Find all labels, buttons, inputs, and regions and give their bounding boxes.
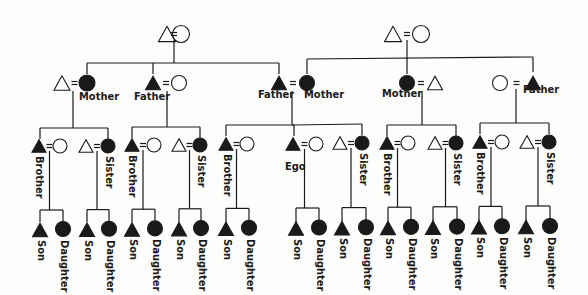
- label-mother: Mother: [382, 88, 422, 99]
- male-filled-icon: [33, 223, 48, 237]
- male-filled-icon: [146, 76, 161, 90]
- male-open-icon: [333, 137, 347, 150]
- label-daughter: Daughter: [151, 239, 162, 291]
- female-filled-icon: [194, 221, 209, 236]
- female-filled-icon: [56, 222, 71, 237]
- female-filled-icon: [102, 221, 117, 236]
- label-son: Son: [384, 238, 395, 259]
- female-open-icon: [240, 137, 254, 151]
- label-son: Son: [222, 239, 233, 260]
- label-son: Son: [36, 240, 47, 261]
- label-daughter: Daughter: [407, 238, 418, 290]
- male-filled-icon: [289, 222, 304, 236]
- male-open-icon: [79, 140, 93, 153]
- label-daughter: Daughter: [362, 238, 373, 290]
- kinship-diagram: MotherFatherFatherMotherMotherFatherBrot…: [0, 0, 588, 295]
- female-filled-icon: [449, 136, 463, 150]
- label-mother: Mother: [304, 89, 344, 100]
- female-filled-icon: [242, 220, 257, 235]
- female-open-icon: [147, 138, 161, 152]
- male-filled-icon: [473, 136, 487, 149]
- female-filled-icon: [312, 220, 327, 235]
- label-brother: Brother: [222, 154, 233, 197]
- male-open-icon: [385, 26, 402, 41]
- female-open-icon: [495, 135, 509, 149]
- label-mother: Mother: [79, 91, 119, 102]
- female-filled-icon: [404, 219, 419, 234]
- label-daughter: Daughter: [498, 237, 509, 289]
- label-father: Father: [523, 84, 559, 95]
- label-brother: Brother: [382, 153, 393, 196]
- male-filled-icon: [335, 221, 350, 235]
- male-filled-icon: [426, 221, 441, 235]
- female-open-icon: [309, 137, 323, 151]
- female-filled-icon: [193, 138, 207, 152]
- female-filled-icon: [355, 136, 369, 150]
- label-son: Son: [128, 239, 139, 260]
- label-sister: Sister: [545, 152, 556, 185]
- male-open-icon: [172, 139, 186, 152]
- male-open-icon: [54, 76, 70, 90]
- label-daughter: Daughter: [245, 239, 256, 291]
- label-daughter: Daughter: [546, 237, 557, 289]
- connector-line: [307, 57, 533, 59]
- label-daughter: Daughter: [453, 238, 464, 290]
- female-filled-icon: [359, 220, 374, 235]
- label-son: Son: [83, 240, 94, 261]
- female-filled-icon: [495, 219, 510, 234]
- label-daughter: Daughter: [59, 240, 70, 292]
- label-brother: Brother: [127, 155, 138, 198]
- label-son: Son: [475, 237, 486, 258]
- female-filled-icon: [450, 219, 465, 234]
- label-daughter: Daughter: [315, 239, 326, 291]
- male-filled-icon: [380, 137, 394, 150]
- male-filled-icon: [381, 221, 396, 235]
- connector-line: [292, 124, 362, 125]
- male-filled-icon: [125, 223, 140, 237]
- male-filled-icon: [172, 222, 187, 236]
- female-filled-icon: [542, 135, 556, 149]
- label-sister: Sister: [104, 156, 115, 189]
- female-filled-icon: [101, 139, 115, 153]
- male-open-icon: [428, 137, 442, 150]
- label-son: Son: [175, 239, 186, 260]
- female-filled-icon: [79, 75, 95, 91]
- label-son: Son: [522, 237, 533, 258]
- male-filled-icon: [286, 138, 300, 151]
- male-filled-icon: [32, 140, 46, 153]
- label-sister: Sister: [452, 153, 463, 186]
- male-filled-icon: [519, 220, 534, 234]
- label-brother: Brother: [34, 156, 45, 199]
- male-filled-icon: [125, 139, 139, 152]
- label-sister: Sister: [196, 155, 207, 188]
- label-son: Son: [338, 238, 349, 259]
- label-daughter: Daughter: [105, 240, 116, 292]
- female-open-icon: [53, 139, 67, 153]
- female-filled-icon: [543, 219, 558, 234]
- label-brother: Brother: [475, 152, 486, 195]
- male-open-icon: [428, 76, 443, 90]
- male-filled-icon: [80, 223, 95, 237]
- label-ego: Ego: [285, 161, 306, 172]
- female-open-icon: [413, 26, 430, 43]
- male-filled-icon: [219, 138, 233, 151]
- label-daughter: Daughter: [197, 239, 208, 291]
- label-son: Son: [429, 238, 440, 259]
- female-open-icon: [493, 76, 508, 91]
- male-filled-icon: [219, 222, 234, 236]
- label-father: Father: [258, 89, 294, 100]
- female-open-icon: [173, 26, 190, 43]
- label-father: Father: [134, 91, 170, 102]
- female-open-icon: [172, 76, 187, 91]
- male-filled-icon: [472, 221, 487, 235]
- female-filled-icon: [148, 221, 163, 236]
- female-open-icon: [401, 136, 415, 150]
- label-son: Son: [292, 239, 303, 260]
- label-sister: Sister: [358, 153, 369, 186]
- male-open-icon: [520, 136, 534, 149]
